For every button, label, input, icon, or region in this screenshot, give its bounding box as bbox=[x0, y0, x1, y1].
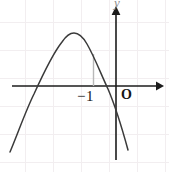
y-axis-label: y bbox=[114, 0, 120, 9]
parabola-figure: −1 O y bbox=[0, 0, 169, 172]
origin-label: O bbox=[121, 88, 132, 102]
coordinate-plot bbox=[0, 0, 169, 172]
x-tick-label-minus-one: −1 bbox=[77, 89, 94, 104]
parabola-curve bbox=[10, 33, 128, 152]
x-axis-arrowhead bbox=[156, 82, 164, 91]
